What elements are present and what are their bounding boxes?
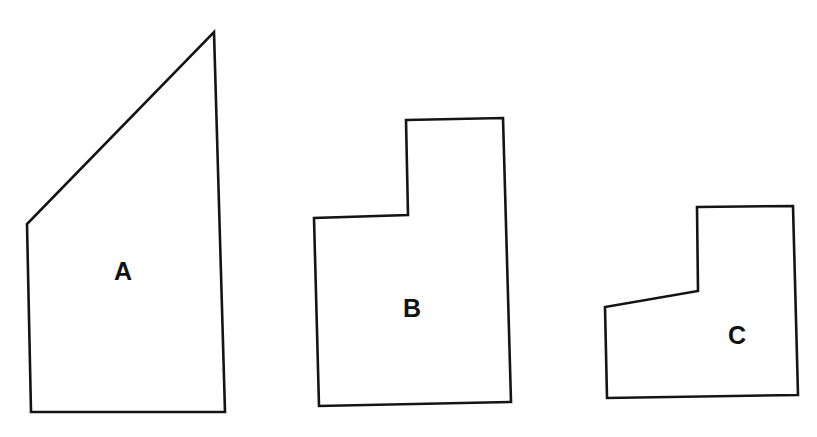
shape-c-label: C — [728, 321, 746, 349]
shape-b-outline[interactable] — [314, 118, 511, 406]
shape-b-label: B — [403, 294, 421, 322]
shape-a-label: A — [114, 257, 132, 285]
shapes-svg: A B C — [0, 0, 817, 437]
figure-canvas: A B C — [0, 0, 817, 437]
shape-a-outline[interactable] — [27, 32, 225, 412]
shape-c-outline[interactable] — [605, 206, 798, 398]
